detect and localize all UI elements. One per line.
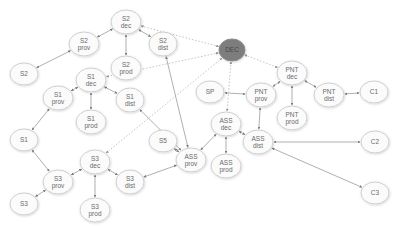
node-s2dist[interactable]: S2dist — [149, 32, 177, 56]
node-label: SP — [206, 88, 215, 95]
node-label: S3 — [20, 200, 28, 207]
node-dec[interactable]: DEC — [219, 39, 245, 61]
node-label: ASS — [251, 135, 265, 142]
node-label: prod — [88, 210, 101, 218]
node-assprod[interactable]: ASSprod — [211, 154, 241, 178]
node-label: prod — [285, 118, 298, 126]
node-label: S2 — [122, 61, 130, 68]
edge-assdist-c3 — [272, 148, 362, 187]
node-label: prod — [84, 122, 97, 130]
edge-pntprov-assdist — [259, 108, 260, 129]
node-label: dist — [158, 44, 168, 51]
edge-s3dec-s3dist — [108, 169, 118, 175]
edge-sp-pntprov — [225, 93, 245, 94]
node-label: dec — [86, 80, 97, 87]
node-s2prov[interactable]: S2prov — [69, 32, 99, 56]
node-label: prov — [185, 160, 198, 168]
nodes-layer: S2decS2provS2distS2prodS2S1decS1provS1di… — [10, 10, 389, 222]
node-pntprod[interactable]: PNTprod — [277, 106, 307, 130]
node-label: prov — [52, 182, 65, 190]
edge-s2dec-s2prov — [97, 29, 112, 37]
node-label: dist — [324, 95, 334, 102]
edge-assdec-assdist — [239, 131, 245, 134]
edge-s1prov-s1 — [32, 109, 49, 130]
node-label: prov — [78, 44, 91, 52]
edge-s3prov-s3 — [35, 190, 45, 197]
node-s2prod[interactable]: S2prod — [111, 56, 141, 80]
edge-s2dec-s2dist — [139, 30, 151, 37]
node-pntdist[interactable]: PNTdist — [314, 83, 344, 107]
node-label: C3 — [371, 189, 380, 196]
node-sp[interactable]: SP — [196, 81, 224, 103]
edge-s2prov-s2 — [37, 51, 71, 68]
node-s1prod[interactable]: S1prod — [76, 110, 106, 134]
node-assprov[interactable]: ASSprov — [176, 148, 206, 172]
edge-s5-assprov — [174, 149, 179, 152]
node-label: S1 — [87, 115, 95, 122]
node-label: DEC — [225, 46, 239, 53]
node-label: S1 — [87, 73, 95, 80]
node-label: prov — [255, 95, 268, 103]
node-c1[interactable]: C1 — [360, 81, 388, 103]
node-s1prov[interactable]: S1prov — [43, 86, 73, 110]
edge-assprov-assdec — [201, 134, 216, 150]
node-s3[interactable]: S3 — [10, 193, 38, 215]
node-label: prod — [119, 68, 132, 76]
edge-pntdec-pntdist — [305, 81, 317, 88]
node-label: S1 — [54, 91, 62, 98]
node-label: dec — [287, 73, 298, 80]
node-label: S5 — [159, 137, 167, 144]
node-s2[interactable]: S2 — [10, 63, 38, 85]
node-s2dec[interactable]: S2dec — [111, 10, 141, 34]
node-s3dec[interactable]: S3dec — [80, 150, 110, 174]
node-s1dec[interactable]: S1dec — [76, 68, 106, 92]
edge-s3dec-s3prov — [71, 169, 82, 175]
node-label: dist — [253, 142, 263, 149]
node-label: ASS — [184, 153, 198, 160]
edge-s1dec-s1prov — [71, 87, 78, 91]
node-label: dist — [125, 100, 135, 107]
node-label: S2 — [20, 70, 28, 77]
node-s1[interactable]: S1 — [10, 129, 38, 151]
supply-chain-network-diagram: S2decS2provS2distS2prodS2S1decS1provS1di… — [0, 0, 401, 227]
node-label: PNT — [286, 111, 299, 118]
edge-s1-s3prov — [32, 150, 49, 171]
node-label: PNT — [323, 88, 336, 95]
node-label: S1 — [20, 136, 28, 143]
node-label: PNT — [255, 88, 268, 95]
node-label: dec — [121, 22, 132, 29]
node-label: S3 — [91, 155, 99, 162]
edge-dec-pntdec — [245, 55, 278, 68]
node-s3dist[interactable]: S3dist — [116, 170, 144, 194]
node-pntprov[interactable]: PNTprov — [246, 83, 276, 107]
node-label: dist — [125, 182, 135, 189]
edge-pntdist-c1 — [345, 93, 360, 94]
node-label: S3 — [91, 203, 99, 210]
node-label: PNT — [286, 66, 299, 73]
node-label: S2 — [159, 37, 167, 44]
node-label: C2 — [371, 138, 380, 145]
node-s3prod[interactable]: S3prod — [80, 198, 110, 222]
node-label: prov — [52, 98, 65, 106]
node-s1dist[interactable]: S1dist — [116, 88, 144, 112]
edge-s1dec-s1dist — [104, 87, 117, 94]
node-label: dec — [90, 162, 101, 169]
node-s3prov[interactable]: S3prov — [43, 170, 73, 194]
node-pntdec[interactable]: PNTdec — [277, 61, 307, 85]
node-label: ASS — [219, 159, 233, 166]
edge-pntdec-pntprov — [273, 81, 280, 86]
node-label: prod — [219, 166, 232, 174]
node-label: S3 — [54, 175, 62, 182]
node-c2[interactable]: C2 — [361, 131, 389, 153]
node-assdec[interactable]: ASSdec — [211, 112, 241, 136]
node-label: C1 — [370, 88, 379, 95]
node-label: S1 — [126, 93, 134, 100]
node-assdist[interactable]: ASSdist — [243, 130, 273, 154]
node-c3[interactable]: C3 — [361, 182, 389, 204]
node-label: S2 — [122, 15, 130, 22]
node-s5[interactable]: S5 — [149, 130, 177, 152]
edge-s3dist-assprov — [144, 165, 177, 177]
node-label: S2 — [80, 37, 88, 44]
node-label: S3 — [126, 175, 134, 182]
node-label: ASS — [219, 117, 233, 124]
